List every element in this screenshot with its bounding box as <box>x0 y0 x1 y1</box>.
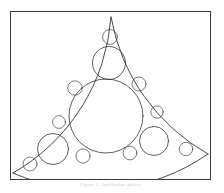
figure-caption: Figure 1. Apollonian gasket <box>10 182 211 188</box>
figure-frame <box>10 11 211 180</box>
apollonian-gasket-diagram <box>11 12 211 180</box>
figure-root: Figure 1. Apollonian gasket <box>0 0 224 193</box>
